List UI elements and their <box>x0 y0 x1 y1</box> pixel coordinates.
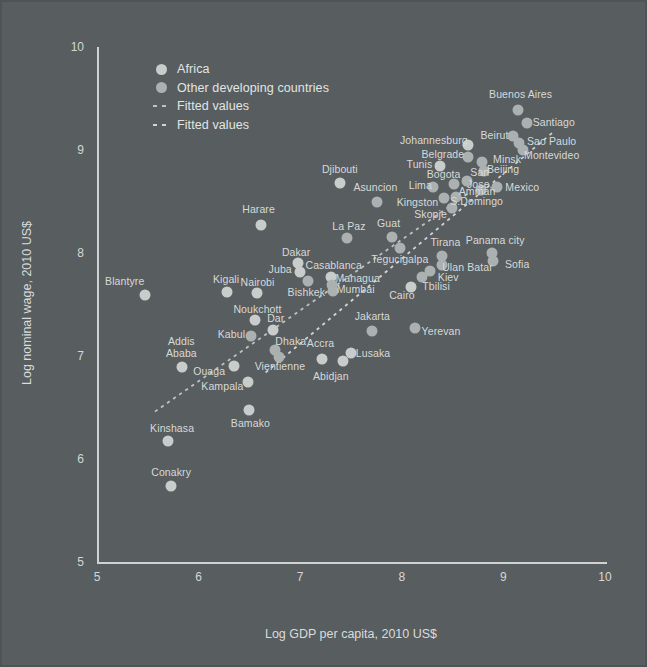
y-tick-label-9: 9 <box>44 143 84 157</box>
point-label-tegucigalpa: Tegucigalpa <box>371 254 428 266</box>
point-label-buenos-aires: Buenos Aires <box>489 89 552 101</box>
point-label-bogota: Bogota <box>427 169 461 181</box>
point-asuncion <box>372 196 383 207</box>
point-label-kabul: Kabul <box>218 330 245 342</box>
point-label-beijing: Beijing <box>487 164 519 176</box>
point-label-cairo: Cairo <box>389 290 415 302</box>
point-santiago <box>521 118 532 129</box>
point-kiev <box>425 265 436 276</box>
x-axis-title: Log GDP per capita, 2010 US$ <box>97 627 605 641</box>
point-label-kinshasa: Kinshasa <box>150 424 194 436</box>
point-tirana <box>437 251 448 262</box>
x-tick-label-6: 6 <box>195 570 202 584</box>
point-label-amman: Amman <box>459 186 496 198</box>
legend-marker-glyph <box>156 64 167 75</box>
legend-marker-glyph <box>153 124 171 126</box>
point-label-asuncion: Asuncion <box>353 182 397 194</box>
point-label-bishkek: Bishkek <box>288 287 325 299</box>
chart-screenshot: { "figure": { "background": "#585d5f", "… <box>0 0 647 667</box>
point-label-bamako: Bamako <box>231 418 270 430</box>
point-kampala <box>243 376 254 387</box>
legend-item-africa-0: Africa <box>150 60 329 79</box>
legend-circle-marker-icon <box>150 64 177 75</box>
point-label-guat: Guat <box>377 218 400 230</box>
point-label-lima: Lima <box>409 180 432 192</box>
point-accra <box>316 354 327 365</box>
point-conakry <box>166 480 177 491</box>
point-label-ulan-batar: Ulan Batar <box>442 262 493 274</box>
point-kigali <box>222 287 233 298</box>
point-label-mexico: Mexico <box>505 182 539 194</box>
point-label-nairobi: Nairobi <box>241 277 275 289</box>
point-blantyre <box>139 290 150 301</box>
point-label-blantyre: Blantyre <box>105 276 144 288</box>
point-label-belgrade: Belgrade <box>421 149 464 161</box>
x-tick-label-5: 5 <box>94 570 101 584</box>
point-noukchott <box>250 314 261 325</box>
point-label-accra: Accra <box>307 338 334 350</box>
x-tick-label-10: 10 <box>598 570 611 584</box>
point-label-sao-paulo: Sao Paulo <box>527 136 576 148</box>
y-tick-label-8: 8 <box>44 246 84 260</box>
legend-label: Other developing countries <box>177 81 329 95</box>
point-label-jakarta: Jakarta <box>355 311 390 323</box>
point-label-ouaga: Ouaga <box>193 366 225 378</box>
x-tick-label-8: 8 <box>398 570 405 584</box>
point-label-skopje: Skopje <box>414 209 447 221</box>
point-jakarta <box>367 326 378 337</box>
legend-item-other-developing-countries-1: Other developing countries <box>150 79 329 98</box>
point-label-casablanca: Casablanca <box>305 260 361 272</box>
point-harare <box>255 220 266 231</box>
x-tick-label-9: 9 <box>500 570 507 584</box>
point-label-mumbai: Mumbai <box>337 284 375 296</box>
point-label-sofia: Sofia <box>505 259 529 271</box>
legend-dash-marker-icon <box>150 124 177 126</box>
legend-circle-marker-icon <box>150 82 177 93</box>
point-kinshasa <box>163 436 174 447</box>
point-label-kigali: Kigali <box>213 274 239 286</box>
legend-marker-glyph <box>153 105 171 107</box>
legend-item-fitted-values-3: Fitted values <box>150 116 329 135</box>
legend-label: Africa <box>177 62 210 76</box>
point-label-dakar: Dakar <box>282 247 311 259</box>
y-axis-title: Log nominal wage, 2010 US$ <box>20 46 34 561</box>
point-label-johannesburg: Johannesburg <box>400 135 468 147</box>
point-ouaga <box>229 361 240 372</box>
point-label-lusaka: Lusaka <box>356 348 390 360</box>
legend-item-fitted-values-2: Fitted values <box>150 97 329 116</box>
point-label-la-paz: La Paz <box>332 221 365 233</box>
point-label-vientienne: Vientienne <box>255 361 305 373</box>
y-tick-label-7: 7 <box>44 349 84 363</box>
point-la-paz <box>341 232 352 243</box>
point-label-tirana: Tirana <box>430 237 460 249</box>
y-tick-label-5: 5 <box>44 555 84 569</box>
point-label-conakry: Conakry <box>151 467 191 479</box>
point-label-addis-ababa: Addis Ababa <box>166 337 197 361</box>
point-label-beirut: Beirut <box>481 130 509 142</box>
point-buenos-aires <box>512 104 523 115</box>
point-tegucigalpa <box>394 242 405 253</box>
point-label-s-domingo: S.Domingo <box>450 197 503 209</box>
legend-label: Fitted values <box>177 118 249 132</box>
x-tick-label-7: 7 <box>297 570 304 584</box>
point-bishkek <box>303 275 314 286</box>
legend-marker-glyph <box>156 82 167 93</box>
point-label-dar: Dar <box>267 313 284 325</box>
point-label-djibouti: Djibouti <box>322 164 358 176</box>
y-tick-label-10: 10 <box>44 40 84 54</box>
point-guat <box>386 231 397 242</box>
point-label-abidjan: Abidjan <box>313 371 349 383</box>
legend-label: Fitted values <box>177 99 249 113</box>
point-juba <box>295 266 306 277</box>
point-djibouti <box>334 177 345 188</box>
point-addis-ababa <box>177 362 188 373</box>
point-label-santiago: Santiago <box>533 117 575 129</box>
y-tick-label-6: 6 <box>44 452 84 466</box>
point-label-juba: Juba <box>269 264 292 276</box>
point-label-kampala: Kampala <box>201 381 243 393</box>
point-bamako <box>244 404 255 415</box>
point-label-montevideo: Montevideo <box>524 150 579 162</box>
point-label-dhaka: Dhaka <box>275 336 306 348</box>
point-label-harare: Harare <box>242 204 275 216</box>
legend-dash-marker-icon <box>150 105 177 107</box>
